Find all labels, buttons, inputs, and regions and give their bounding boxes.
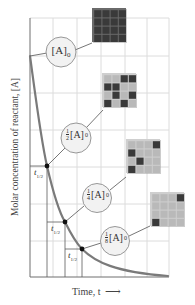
molecule-cell-empty [169, 211, 176, 218]
molecule-cell-empty [145, 158, 152, 165]
molecule-cell-present [94, 27, 101, 34]
molecule-cell-present [129, 75, 136, 82]
molecule-cell-empty [160, 202, 167, 209]
molecule-cell-present [153, 141, 160, 148]
molecule-grid-2 [126, 139, 161, 174]
half-life-label-3: t1/2 [68, 250, 77, 262]
label-quarter-A0: 1 4 [A]0 [82, 188, 114, 201]
molecule-cell-present [102, 10, 109, 17]
molecule-cell-present [121, 75, 128, 82]
molecule-cell-present [119, 35, 126, 42]
molecule-cell-present [119, 18, 126, 25]
molecule-cell-empty [160, 219, 167, 226]
molecule-cell-empty [160, 211, 167, 218]
molecule-cell-empty [128, 141, 135, 148]
fraction-den: 2 [66, 135, 69, 141]
molecule-cell-empty [121, 92, 128, 99]
label-sub: 0 [124, 235, 127, 241]
molecule-cell-empty [104, 92, 111, 99]
fraction-eighth: 1 8 [105, 231, 108, 244]
molecule-cell-empty [177, 202, 184, 209]
fraction-num: 1 [87, 188, 90, 195]
molecule-cell-empty [177, 219, 184, 226]
molecule-cell-present [128, 149, 135, 156]
molecule-cell-present [104, 83, 111, 90]
molecule-cell-present [102, 18, 109, 25]
molecule-cell-present [152, 219, 159, 226]
y-axis-label: Molar concentration of reactant, [A] [10, 78, 20, 216]
label-A0: [A]0 [46, 44, 76, 59]
molecule-cell-empty [153, 158, 160, 165]
x-axis-label: Time, t [72, 286, 101, 297]
fraction-half: 1 2 [66, 128, 69, 141]
molecule-cell-empty [129, 100, 136, 107]
fraction-quarter: 1 4 [87, 188, 90, 201]
fraction-num: 1 [105, 231, 108, 238]
molecule-cell-empty [152, 194, 159, 201]
half-life-label-1: t1/2 [34, 167, 43, 179]
fraction-num: 1 [66, 128, 69, 135]
molecule-cell-present [112, 92, 119, 99]
label-sub: 0 [106, 192, 109, 198]
molecule-cell-present [112, 83, 119, 90]
molecule-cell-present [94, 18, 101, 25]
molecule-cell-empty [112, 100, 119, 107]
molecule-grid-0 [92, 8, 127, 43]
molecule-cell-empty [121, 83, 128, 90]
molecule-cell-empty [136, 166, 143, 173]
molecule-cell-present [104, 100, 111, 107]
x-axis-label-wrap: Time, t ⟶ [72, 285, 121, 298]
molecule-cell-present [111, 18, 118, 25]
molecule-cell-present [94, 35, 101, 42]
molecule-cell-present [111, 10, 118, 17]
molecule-cell-empty [145, 166, 152, 173]
molecule-cell-present [121, 100, 128, 107]
point-eighth [80, 247, 85, 252]
molecule-cell-empty [169, 219, 176, 226]
label-A0-main: [A] [52, 44, 67, 56]
molecule-cell-present [119, 10, 126, 17]
molecule-cell-empty [112, 75, 119, 82]
molecule-cell-present [128, 166, 135, 173]
point-quarter [63, 220, 68, 225]
molecule-cell-empty [145, 149, 152, 156]
label-main: [A] [70, 129, 84, 140]
molecule-cell-empty [129, 83, 136, 90]
molecule-cell-empty [177, 211, 184, 218]
fraction-den: 4 [87, 195, 90, 201]
molecule-grid-1 [102, 73, 137, 108]
fraction-den: 8 [105, 238, 108, 244]
molecule-cell-empty [145, 141, 152, 148]
t-subscript: 1/2 [54, 230, 60, 235]
molecule-cell-present [102, 35, 109, 42]
molecule-cell-present [119, 27, 126, 34]
label-main: [A] [91, 189, 105, 200]
label-eighth-A0: 1 8 [A]0 [100, 231, 132, 244]
molecule-cell-empty [136, 141, 143, 148]
molecule-cell-present [177, 194, 184, 201]
point-half [45, 164, 50, 169]
molecule-cell-empty [169, 194, 176, 201]
t-subscript: 1/2 [37, 174, 43, 179]
molecule-cell-empty [160, 194, 167, 201]
label-sub: 0 [85, 132, 88, 138]
molecule-cell-empty [128, 158, 135, 165]
molecule-cell-empty [169, 202, 176, 209]
molecule-cell-empty [152, 202, 159, 209]
molecule-cell-empty [152, 211, 159, 218]
molecule-cell-empty [153, 149, 160, 156]
molecule-cell-empty [136, 149, 143, 156]
half-life-diagram [0, 0, 195, 305]
label-A0-sub: 0 [67, 51, 71, 59]
right-arrow-icon: ⟶ [105, 285, 121, 298]
molecule-cell-empty [153, 166, 160, 173]
molecule-cell-empty [104, 75, 111, 82]
half-life-label-2: t1/2 [51, 223, 60, 235]
molecule-cell-present [129, 92, 136, 99]
label-half-A0: 1 2 [A]0 [61, 128, 93, 141]
label-main: [A] [109, 232, 123, 243]
molecule-cell-present [102, 27, 109, 34]
molecule-cell-present [111, 35, 118, 42]
molecule-grid-3 [150, 192, 185, 227]
molecule-cell-present [94, 10, 101, 17]
